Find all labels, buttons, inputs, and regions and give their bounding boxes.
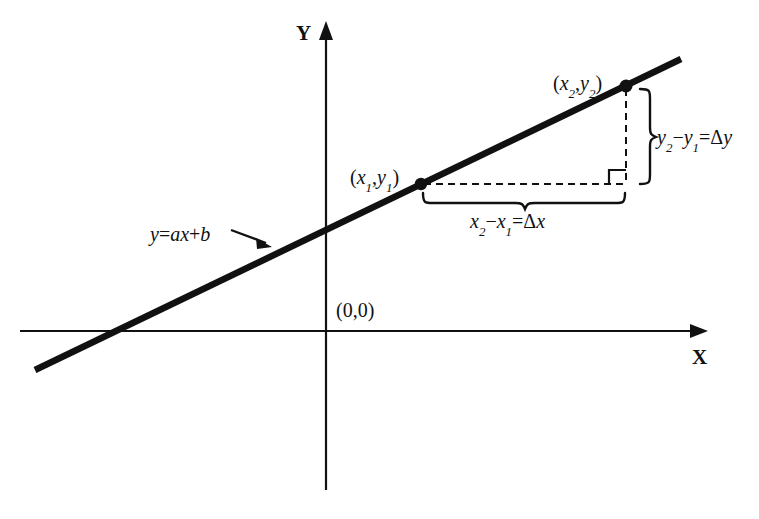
- point1-y-sub: 1: [386, 180, 393, 195]
- deltay-sub1: 1: [693, 140, 700, 155]
- equation-equals: =: [159, 223, 170, 245]
- y-axis-label: Y: [296, 23, 311, 44]
- point1-x-sub: 1: [366, 180, 373, 195]
- equation-a: a: [170, 223, 180, 245]
- horizontal-brace: [423, 193, 625, 209]
- point-x2y2-dot: [620, 80, 633, 93]
- deltay-sub2: 2: [666, 140, 673, 155]
- equation-y: y: [150, 223, 159, 245]
- point2-open-paren: (: [553, 72, 560, 94]
- delta-y-label: y2−y1=Δy: [657, 127, 732, 151]
- deltax-equals: =: [512, 210, 523, 232]
- point1-open-paren: (: [350, 166, 357, 188]
- deltay-y2: y: [657, 126, 666, 148]
- y-axis: [319, 21, 333, 490]
- deltax-sub1: 1: [506, 224, 513, 239]
- deltay-var: y: [723, 126, 732, 148]
- diagram-canvas: [0, 0, 759, 519]
- line-y-equals-ax-plus-b: [35, 59, 681, 370]
- point-x1y1-label: (x1,y1): [350, 167, 399, 191]
- deltax-x2: x: [470, 210, 479, 232]
- x-axis-label: X: [692, 347, 707, 368]
- point2-close-paren: ): [595, 72, 602, 94]
- deltax-var: x: [536, 210, 545, 232]
- right-angle-marker-icon: [609, 170, 626, 184]
- point2-x-var: x: [560, 72, 569, 94]
- deltax-minus: −: [485, 210, 496, 232]
- point1-close-paren: ): [392, 166, 399, 188]
- line-equation-label: y=ax+b: [150, 224, 210, 244]
- point2-y-var: y: [580, 72, 589, 94]
- equation-x: x: [180, 223, 189, 245]
- deltax-x1: x: [497, 210, 506, 232]
- deltay-delta-symbol: Δ: [710, 126, 723, 148]
- deltax-sub2: 2: [479, 224, 486, 239]
- point2-y-sub: 2: [589, 86, 596, 101]
- point1-y-var: y: [377, 166, 386, 188]
- equation-plus: +: [189, 223, 200, 245]
- vertical-brace: [640, 89, 656, 184]
- origin-label: (0,0): [336, 300, 374, 320]
- point-x1y1-dot: [415, 178, 427, 190]
- line-slope-diagram: Y X (0,0) (x1,y1) (x2,y2) y2−y1=Δy x2−x1…: [0, 0, 759, 519]
- deltax-delta-symbol: Δ: [523, 210, 536, 232]
- deltay-minus: −: [672, 126, 683, 148]
- delta-x-label: x2−x1=Δx: [470, 211, 545, 235]
- point2-x-sub: 2: [569, 86, 576, 101]
- deltay-y1: y: [684, 126, 693, 148]
- equation-b: b: [200, 223, 210, 245]
- point1-x-var: x: [357, 166, 366, 188]
- deltay-equals: =: [699, 126, 710, 148]
- point-x2y2-label: (x2,y2): [553, 73, 602, 97]
- equation-pointer-arrow: [231, 230, 272, 249]
